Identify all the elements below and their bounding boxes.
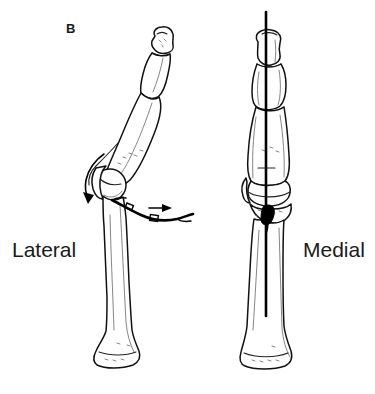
anatomical-illustration <box>0 0 375 394</box>
medial-fetlock-condyle <box>248 181 290 206</box>
lateral-distal-phalanx <box>152 27 174 54</box>
medial-view-label: Medial <box>303 239 365 260</box>
figure-background <box>0 0 375 394</box>
figure-container: B Lateral Medial <box>0 0 375 394</box>
panel-label: B <box>66 22 75 35</box>
lateral-view-label: Lateral <box>12 239 76 260</box>
